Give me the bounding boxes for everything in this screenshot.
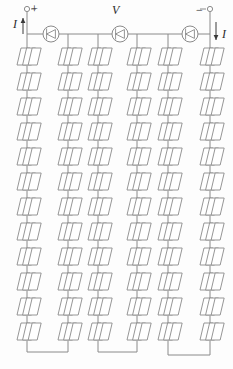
negative-sign: −	[196, 4, 203, 16]
current-label-left: I	[13, 18, 17, 30]
meter-1[interactable]	[43, 26, 59, 42]
negative-terminal[interactable]	[207, 6, 212, 11]
bottom-link-1	[27, 340, 68, 352]
battery-bank-schematic	[0, 0, 233, 369]
positive-terminal[interactable]	[24, 6, 29, 11]
current-arrow-right-head	[214, 35, 219, 40]
current-arrow-left-head	[21, 18, 26, 23]
current-label-right: I	[222, 28, 226, 40]
bottom-link-3	[168, 340, 210, 355]
bottom-link-2	[98, 340, 137, 352]
voltage-label: V	[112, 4, 119, 16]
meter-2[interactable]	[112, 26, 128, 42]
positive-sign: +	[31, 3, 38, 15]
meter-3[interactable]	[182, 26, 198, 42]
circuit-diagram: I I V + −	[0, 0, 233, 369]
